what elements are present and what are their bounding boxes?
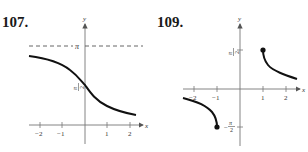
svg-text:π: π	[229, 120, 233, 126]
neg-pi-half-label: − π 2	[224, 120, 235, 133]
svg-text:π: π	[72, 86, 78, 90]
closed-endpoint	[260, 47, 265, 52]
graph-107: x y −2 −1 1 2 π π 2	[29, 15, 149, 144]
tick-label: 2	[128, 130, 132, 138]
left-branch-curve	[183, 98, 217, 127]
arccot-curve	[29, 56, 136, 115]
svg-text:−: −	[224, 124, 228, 132]
x-axis-label: x	[301, 86, 306, 94]
closed-endpoint	[214, 124, 219, 129]
right-branch-curve	[263, 50, 297, 79]
tick-label: 2	[284, 94, 288, 102]
pi-half-label: π 2	[227, 48, 240, 56]
graph-109: x y −2 −1 1 2 π 2 − π 2	[183, 15, 306, 146]
y-axis-label: y	[237, 15, 242, 23]
svg-text:2: 2	[234, 51, 240, 54]
figures-canvas: x y −2 −1 1 2 π π 2 x y	[0, 0, 308, 152]
tick-label: 1	[105, 130, 109, 138]
tick-label: −1	[57, 130, 65, 138]
svg-text:2: 2	[230, 127, 233, 133]
svg-text:π: π	[227, 51, 233, 55]
y-axis-label: y	[82, 15, 87, 23]
tick-label: 1	[261, 94, 265, 102]
svg-text:2: 2	[79, 86, 85, 89]
tick-label: −1	[212, 94, 220, 102]
x-axis-label: x	[144, 122, 149, 130]
pi-half-label: π 2	[72, 83, 85, 91]
tick-label: −2	[35, 130, 43, 138]
